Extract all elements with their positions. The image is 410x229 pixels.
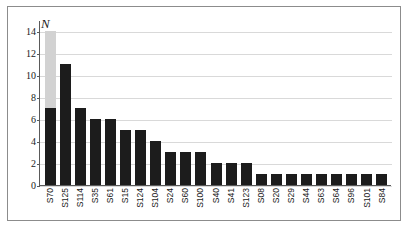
bar-segment-primary [105, 119, 116, 185]
x-axis-tick-label: S84 [377, 188, 386, 203]
bar-slot [163, 21, 178, 185]
x-axis-tick-label: S44 [302, 188, 311, 203]
x-label-slot: S60 [178, 187, 193, 221]
bar-slot [73, 21, 88, 185]
bar[interactable] [376, 174, 387, 185]
bar-segment-primary [331, 174, 342, 185]
x-label-slot: S84 [374, 187, 389, 221]
x-label-slot: S15 [117, 187, 132, 221]
bar-segment-primary [150, 141, 161, 185]
bar-segment-primary [286, 174, 297, 185]
bar-segment-primary [135, 130, 146, 185]
x-label-slot: S24 [163, 187, 178, 221]
bar-slot [254, 21, 269, 185]
bar-segment-primary [256, 174, 267, 185]
x-axis-tick-label: S24 [166, 188, 175, 203]
x-axis-tick-label: S96 [347, 188, 356, 203]
bar-slot [329, 21, 344, 185]
bar[interactable] [361, 174, 372, 185]
x-axis-tick-label: S124 [136, 188, 145, 208]
bar[interactable] [211, 163, 222, 185]
bar[interactable] [180, 152, 191, 185]
bar[interactable] [105, 119, 116, 185]
x-label-slot: S61 [102, 187, 117, 221]
bar-segment-primary [241, 163, 252, 185]
x-label-slot: S64 [329, 187, 344, 221]
x-axis-tick-label: S104 [151, 188, 160, 208]
bar-segment-primary [120, 130, 131, 185]
bar-slot [88, 21, 103, 185]
x-axis-tick-label: S125 [60, 188, 69, 208]
y-axis-tick-label: 4 [31, 137, 36, 147]
bar[interactable] [301, 174, 312, 185]
y-axis-tick-label: 12 [26, 49, 36, 59]
x-label-slot: S20 [268, 187, 283, 221]
bar[interactable] [226, 163, 237, 185]
bar-segment-primary [60, 64, 71, 185]
bar-slot [118, 21, 133, 185]
x-axis-tick-label: S40 [211, 188, 220, 203]
x-label-slot: S101 [359, 187, 374, 221]
bar-slot [133, 21, 148, 185]
x-axis-tick-label: S100 [196, 188, 205, 208]
x-axis-tick-label: S70 [45, 188, 54, 203]
bar[interactable] [286, 174, 297, 185]
bar-slot [299, 21, 314, 185]
bar[interactable] [256, 174, 267, 185]
bar[interactable] [45, 31, 56, 185]
y-axis-tick-label: 14 [26, 27, 36, 37]
x-axis-tick-label: S64 [332, 188, 341, 203]
bar[interactable] [135, 130, 146, 185]
bar[interactable] [165, 152, 176, 185]
bar[interactable] [150, 141, 161, 185]
bar[interactable] [346, 174, 357, 185]
bar-segment-primary [75, 108, 86, 185]
x-axis-labels: S70S125S114S35S61S15S124S104S24S60S100S4… [39, 187, 391, 221]
x-label-slot: S123 [238, 187, 253, 221]
x-axis-tick-label: S35 [91, 188, 100, 203]
x-axis-tick-label: S123 [242, 188, 251, 208]
bar-segment-primary [361, 174, 372, 185]
bar-slot [344, 21, 359, 185]
bar[interactable] [195, 152, 206, 185]
bar-slot [209, 21, 224, 185]
x-label-slot: S104 [148, 187, 163, 221]
bar-segment-secondary [45, 31, 56, 108]
x-label-slot: S29 [284, 187, 299, 221]
bar-segment-primary [90, 119, 101, 185]
bar-segment-primary [301, 174, 312, 185]
bar-segment-primary [226, 163, 237, 185]
x-label-slot: S70 [42, 187, 57, 221]
bar[interactable] [120, 130, 131, 185]
bar-slot [58, 21, 73, 185]
y-axis-tick-label: 10 [26, 71, 36, 81]
x-label-slot: S40 [208, 187, 223, 221]
x-axis-tick-label: S61 [106, 188, 115, 203]
x-axis-tick-label: S15 [121, 188, 130, 203]
bar[interactable] [60, 64, 71, 185]
bar-series-group [40, 21, 391, 185]
y-axis-tick-label: 0 [31, 181, 36, 191]
bar-segment-primary [195, 152, 206, 185]
bar[interactable] [271, 174, 282, 185]
bar[interactable] [241, 163, 252, 185]
bar-slot [224, 21, 239, 185]
bar-segment-primary [180, 152, 191, 185]
bar-slot [239, 21, 254, 185]
bar-segment-primary [346, 174, 357, 185]
y-axis-tick-label: 8 [31, 93, 36, 103]
chart-figure: N 02468101214 S70S125S114S35S61S15S124S1… [7, 6, 401, 221]
x-axis-tick-label: S60 [181, 188, 190, 203]
bar[interactable] [316, 174, 327, 185]
x-axis-tick-label: S41 [226, 188, 235, 203]
x-axis-tick-label: S114 [75, 188, 84, 207]
bar[interactable] [75, 108, 86, 185]
x-label-slot: S35 [87, 187, 102, 221]
bar[interactable] [331, 174, 342, 185]
bar-slot [178, 21, 193, 185]
bar-slot [314, 21, 329, 185]
bar-slot [269, 21, 284, 185]
bar-slot [374, 21, 389, 185]
bar[interactable] [90, 119, 101, 185]
bar-segment-primary [165, 152, 176, 185]
